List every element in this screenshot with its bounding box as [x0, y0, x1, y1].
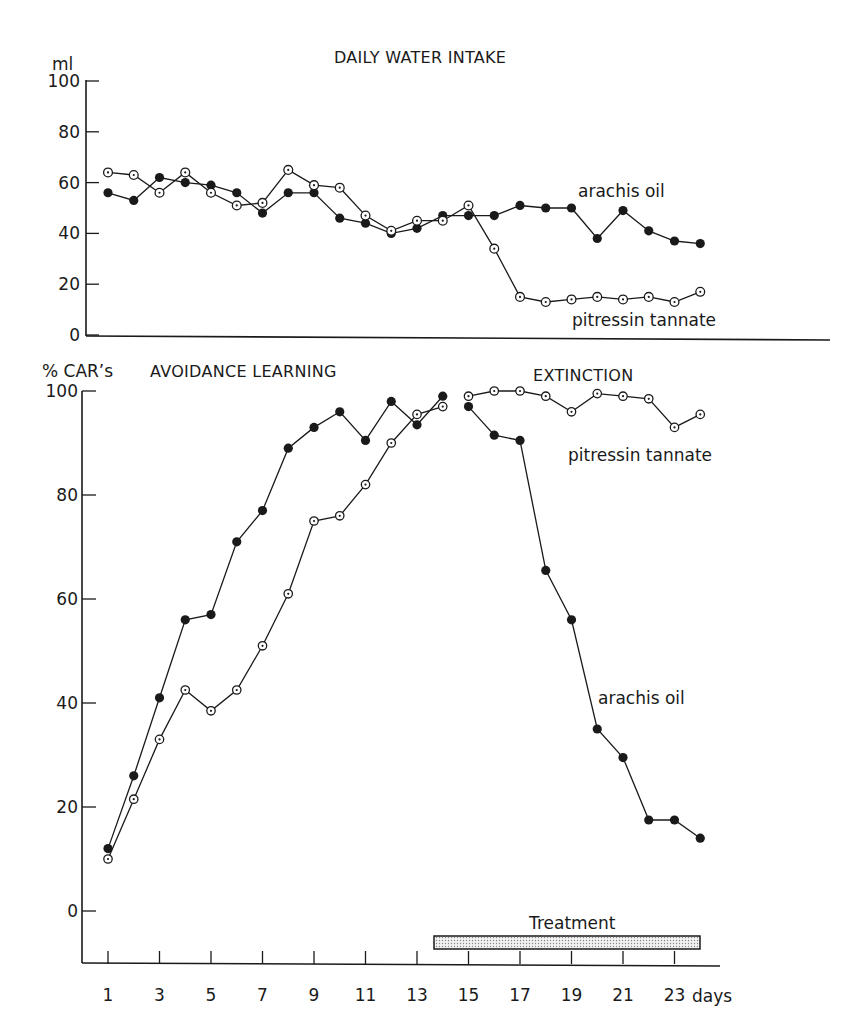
top-y-tick-label: 20: [58, 274, 80, 294]
marker-center-dot: [210, 710, 212, 712]
filled-circle-marker-icon: [541, 566, 550, 575]
water-intake-chart: ml DAILY WATER INTAKE 020406080100 arach…: [48, 48, 830, 345]
filled-circle-marker-icon: [181, 615, 190, 624]
marker-center-dot: [648, 398, 650, 400]
top-y-tick-label: 40: [58, 223, 80, 243]
top-y-ticks: 020406080100: [48, 71, 99, 345]
series-line-arachis-oil: [108, 396, 443, 848]
marker-center-dot: [364, 215, 366, 217]
bottom-x-tick-label: 21: [612, 985, 634, 1005]
bottom-x-tick-label: 5: [206, 985, 217, 1005]
marker-center-dot: [442, 406, 444, 408]
bottom-x-axis: [82, 963, 720, 966]
avoidance-learning-title: AVOIDANCE LEARNING: [150, 362, 337, 381]
marker-center-dot: [390, 230, 392, 232]
bottom-x-tick-label: 17: [509, 985, 531, 1005]
bottom-x-tick-label: 7: [257, 985, 268, 1005]
bottom-y-unit: % CAR’s: [42, 361, 113, 381]
filled-circle-marker-icon: [103, 188, 112, 197]
filled-circle-marker-icon: [541, 203, 550, 212]
filled-circle-marker-icon: [490, 211, 499, 220]
top-label-arachis-oil: arachis oil: [578, 181, 665, 201]
marker-center-dot: [107, 858, 109, 860]
filled-circle-marker-icon: [387, 397, 396, 406]
filled-circle-marker-icon: [438, 392, 447, 401]
filled-circle-marker-icon: [515, 436, 524, 445]
marker-center-dot: [261, 645, 263, 647]
filled-circle-marker-icon: [206, 610, 215, 619]
filled-circle-marker-icon: [129, 771, 138, 780]
filled-circle-marker-icon: [335, 407, 344, 416]
filled-circle-marker-icon: [464, 211, 473, 220]
treatment-bar: [434, 936, 700, 949]
filled-circle-marker-icon: [670, 236, 679, 245]
top-y-tick-label: 100: [48, 71, 80, 91]
marker-center-dot: [133, 798, 135, 800]
marker-center-dot: [673, 301, 675, 303]
marker-center-dot: [416, 413, 418, 415]
marker-center-dot: [467, 204, 469, 206]
bottom-y-tick-label: 60: [56, 589, 78, 609]
marker-center-dot: [184, 689, 186, 691]
series-line-arachis-oil: [469, 407, 701, 839]
filled-circle-marker-icon: [284, 444, 293, 453]
bottom-x-tick-label: 15: [458, 985, 480, 1005]
marker-center-dot: [673, 426, 675, 428]
marker-center-dot: [596, 393, 598, 395]
marker-center-dot: [364, 484, 366, 486]
avoidance-chart: % CAR’s AVOIDANCE LEARNING EXTINCTION 02…: [42, 361, 732, 1006]
bottom-y-tick-label: 80: [56, 485, 78, 505]
marker-center-dot: [545, 395, 547, 397]
marker-center-dot: [313, 520, 315, 522]
filled-circle-marker-icon: [593, 234, 602, 243]
marker-center-dot: [442, 220, 444, 222]
filled-circle-marker-icon: [155, 693, 164, 702]
treatment-label: Treatment: [528, 913, 616, 933]
bottom-x-tick-label: 3: [154, 985, 165, 1005]
filled-circle-marker-icon: [361, 436, 370, 445]
marker-center-dot: [236, 204, 238, 206]
marker-center-dot: [339, 515, 341, 517]
filled-circle-marker-icon: [567, 615, 576, 624]
filled-circle-marker-icon: [232, 188, 241, 197]
top-axes: [86, 80, 830, 340]
bottom-x-tick-label: 13: [406, 985, 428, 1005]
top-y-tick-label: 80: [58, 122, 80, 142]
marker-center-dot: [339, 187, 341, 189]
marker-center-dot: [570, 411, 572, 413]
bottom-x-tick-label: 9: [309, 985, 320, 1005]
marker-center-dot: [236, 689, 238, 691]
bottom-x-ticks: 1357911131517192123days: [103, 951, 733, 1006]
bottom-y-tick-label: 40: [56, 693, 78, 713]
marker-center-dot: [133, 174, 135, 176]
bottom-label-pitressin-tannate: pitressin tannate: [568, 445, 712, 465]
marker-center-dot: [493, 390, 495, 392]
top-x-axis: [86, 336, 830, 340]
marker-center-dot: [699, 291, 701, 293]
marker-center-dot: [416, 220, 418, 222]
top-y-tick-label: 0: [69, 325, 80, 345]
filled-circle-marker-icon: [567, 203, 576, 212]
marker-center-dot: [545, 301, 547, 303]
filled-circle-marker-icon: [490, 431, 499, 440]
marker-center-dot: [622, 395, 624, 397]
filled-circle-marker-icon: [515, 201, 524, 210]
filled-circle-marker-icon: [644, 226, 653, 235]
bottom-label-arachis-oil: arachis oil: [598, 688, 685, 708]
filled-circle-marker-icon: [696, 239, 705, 248]
bottom-y-tick-label: 20: [56, 797, 78, 817]
marker-center-dot: [648, 296, 650, 298]
filled-circle-marker-icon: [618, 753, 627, 762]
marker-center-dot: [467, 395, 469, 397]
top-label-pitressin-tannate: pitressin tannate: [572, 310, 716, 330]
marker-center-dot: [313, 184, 315, 186]
filled-circle-marker-icon: [412, 420, 421, 429]
filled-circle-marker-icon: [232, 537, 241, 546]
filled-circle-marker-icon: [155, 173, 164, 182]
filled-circle-marker-icon: [670, 815, 679, 824]
marker-center-dot: [519, 390, 521, 392]
series-line-pitressin-tannate: [108, 407, 443, 859]
marker-center-dot: [287, 593, 289, 595]
bottom-y-tick-label: 100: [46, 381, 78, 401]
marker-center-dot: [158, 192, 160, 194]
